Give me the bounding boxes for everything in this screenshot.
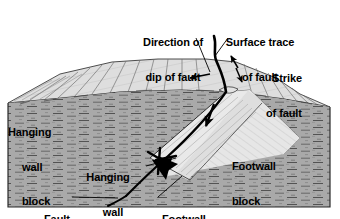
label-footwall-block-line2: block — [232, 196, 298, 208]
label-strike-of-fault-line2: of fault — [266, 108, 326, 120]
label-footwall-block-line1: Footwall — [232, 161, 298, 173]
label-hanging-wall-block-line1: Hanging — [8, 127, 74, 139]
label-strike-of-fault: Strike of fault — [266, 50, 326, 142]
label-hanging-wall-line2: wall — [76, 207, 140, 219]
label-surface-trace-line1: Surface trace — [218, 37, 302, 49]
label-direction-of-dip-line2: dip of fault — [130, 72, 216, 84]
label-footwall: Footwall — [162, 191, 206, 219]
fault-block-diagram: Direction of dip of fault Surface trace … — [0, 0, 340, 219]
label-strike-of-fault-line1: Strike — [266, 73, 326, 85]
label-direction-of-dip-line1: Direction of — [130, 37, 216, 49]
label-hanging-wall-block-line2: wall — [8, 162, 74, 174]
label-footwall-line1: Footwall — [162, 214, 206, 219]
label-hanging-wall: Hanging wall — [76, 149, 140, 219]
label-fault: Fault — [44, 191, 70, 219]
label-direction-of-dip: Direction of dip of fault — [130, 14, 216, 106]
label-hanging-wall-line1: Hanging — [76, 172, 140, 184]
label-fault-line1: Fault — [44, 214, 70, 219]
label-footwall-block: Footwall block — [232, 138, 298, 219]
